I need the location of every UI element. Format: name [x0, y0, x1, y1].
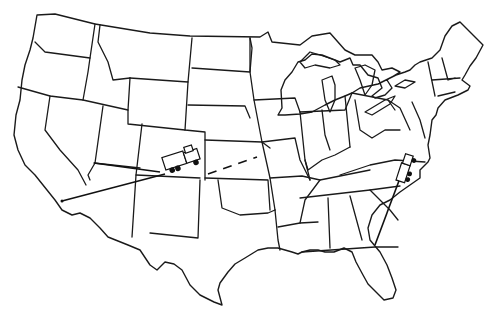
us-map [0, 0, 495, 317]
great-lakes [300, 52, 415, 115]
route-utah-arizona-line [94, 163, 160, 172]
route-kansas-dashed-line [208, 157, 257, 174]
truck-icon [161, 144, 202, 175]
truck-icon [396, 153, 417, 184]
state-borders [18, 24, 460, 252]
route-endpoint-dot [61, 200, 64, 203]
route-west-line [62, 174, 165, 201]
